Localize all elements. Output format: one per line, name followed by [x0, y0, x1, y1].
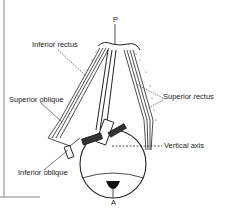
inner-muscle-bundle [96, 50, 116, 130]
label-anterior: A [111, 199, 116, 207]
label-vertical-axis: Vertical axis [164, 142, 204, 150]
eye-muscle-diagram [0, 0, 228, 211]
label-inferior-rectus: Inferior rectus [32, 41, 78, 49]
inferior-oblique-leader [44, 150, 68, 170]
label-apex: P [113, 16, 118, 24]
inferior-rectus-leader [58, 50, 86, 76]
label-inferior-oblique: Inferior oblique [18, 169, 68, 177]
label-superior-oblique: Superior oblique [9, 96, 64, 104]
superior-oblique-leader [40, 102, 62, 122]
label-superior-rectus: Superior rectus [163, 93, 214, 101]
superior-rectus-leader-2 [148, 100, 163, 108]
orbit-apex-outline [98, 42, 140, 50]
